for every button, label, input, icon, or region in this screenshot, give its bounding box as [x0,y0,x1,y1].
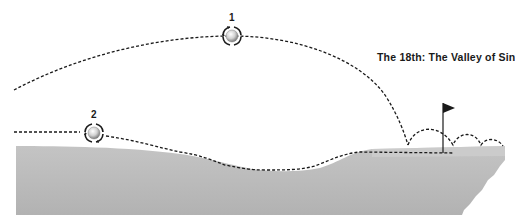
diagram-title: The 18th: The Valley of Sin [377,51,515,63]
shot-label-1: 1 [229,12,235,23]
bounces-shot-1 [408,129,503,146]
golf-ball-spin-icon [84,124,103,143]
golf-ball-spin-icon [222,26,241,45]
shot-label-2: 2 [91,109,97,120]
golf-shot-diagram: 1 2 [0,0,515,224]
trajectory-shot-1 [14,36,408,145]
green-surface [372,146,505,157]
